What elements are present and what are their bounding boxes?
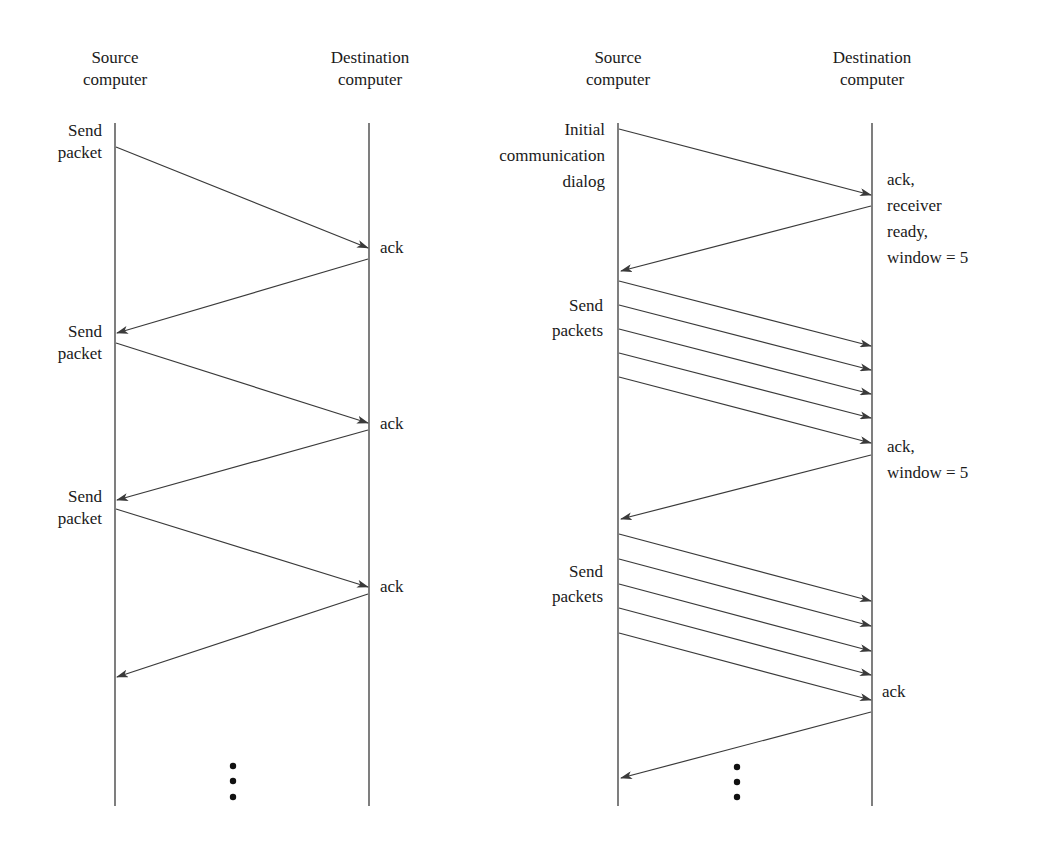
packet-arrow xyxy=(619,305,871,370)
right-continuation-dots xyxy=(734,764,740,800)
ack-arrow xyxy=(621,712,871,778)
packet-arrow xyxy=(619,377,871,443)
packet-arrow xyxy=(116,147,368,248)
packet-arrow xyxy=(116,509,368,587)
packet-arrow xyxy=(619,281,871,346)
left-continuation-dots xyxy=(230,763,236,800)
right-send-packets-label-1: Send packets xyxy=(490,293,603,343)
ack-arrow xyxy=(117,594,368,677)
packet-arrow xyxy=(619,329,871,394)
packet-arrow xyxy=(619,633,871,700)
right-ack-label: ack xyxy=(882,681,906,703)
right-ack-window-label: ack, window = 5 xyxy=(887,434,968,486)
left-messages xyxy=(116,147,368,677)
right-source-header: Source computer xyxy=(568,47,668,91)
packet-arrow xyxy=(619,559,871,626)
right-ack-receiver-ready-label: ack, receiver ready, window = 5 xyxy=(887,167,968,271)
packet-arrow xyxy=(619,353,871,418)
left-source-header: Source computer xyxy=(65,47,165,91)
left-ack-label-2: ack xyxy=(380,413,404,435)
left-ack-label-1: ack xyxy=(380,237,404,259)
left-destination-header: Destination computer xyxy=(310,47,430,91)
right-destination-header: Destination computer xyxy=(812,47,932,91)
right-send-packets-label-2: Send packets xyxy=(490,559,603,609)
initial-dialog-arrow xyxy=(619,129,871,195)
packet-arrow xyxy=(116,343,368,423)
ack-arrow xyxy=(117,259,368,333)
left-send-label-3: Send packet xyxy=(20,486,102,530)
receiver-ready-arrow xyxy=(621,206,871,271)
packet-arrow xyxy=(619,534,871,601)
ack-arrow xyxy=(117,430,368,500)
left-send-label-1: Send packet xyxy=(20,120,102,164)
left-ack-label-3: ack xyxy=(380,576,404,598)
right-messages xyxy=(619,129,871,778)
left-send-label-2: Send packet xyxy=(20,321,102,365)
right-initial-dialog-label: Initial communication dialog xyxy=(470,117,605,195)
ack-window-arrow xyxy=(621,455,871,519)
